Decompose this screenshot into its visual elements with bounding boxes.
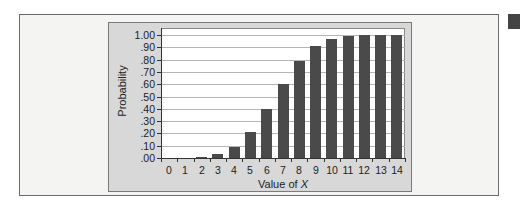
x-tick	[372, 158, 373, 162]
bar-x-2	[196, 157, 207, 158]
x-tick	[259, 158, 260, 162]
x-tick	[210, 158, 211, 162]
y-tick-label: .10	[115, 140, 155, 152]
y-axis	[161, 28, 162, 159]
x-tick-label: 6	[259, 164, 275, 176]
x-tick	[291, 158, 292, 162]
x-axis-label-variable: X	[301, 178, 308, 190]
bar-x-8	[294, 61, 305, 158]
x-axis-label-prefix: Value of	[258, 178, 301, 190]
bar-x-9	[310, 46, 321, 158]
x-tick	[389, 158, 390, 162]
x-tick	[356, 158, 357, 162]
bar-x-6	[261, 109, 272, 158]
x-tick-label: 1	[177, 164, 193, 176]
x-tick-label: 10	[324, 164, 340, 176]
bar-x-11	[343, 36, 354, 158]
bar-x-4	[229, 147, 240, 158]
x-tick	[226, 158, 227, 162]
x-tick	[177, 158, 178, 162]
x-tick-label: 7	[275, 164, 291, 176]
x-tick	[307, 158, 308, 162]
x-tick-label: 12	[356, 164, 372, 176]
x-tick	[242, 158, 243, 162]
x-axis-label: Value of X	[161, 178, 405, 190]
x-tick-label: 8	[291, 164, 307, 176]
x-tick-label: 11	[340, 164, 356, 176]
bar-x-13	[375, 35, 386, 158]
bar-x-5	[245, 132, 256, 158]
x-tick-label: 14	[389, 164, 405, 176]
x-tick	[405, 158, 406, 162]
x-tick-label: 2	[194, 164, 210, 176]
y-axis-label: Probability	[116, 51, 128, 131]
bar-x-12	[359, 35, 370, 158]
x-tick-label: 13	[373, 164, 389, 176]
bar-x-3	[212, 154, 223, 158]
x-tick	[161, 158, 162, 162]
x-tick-label: 4	[226, 164, 242, 176]
y-tick-label: 1.00	[115, 29, 155, 41]
y-tick-label: .00	[115, 152, 155, 164]
x-tick-label: 3	[210, 164, 226, 176]
bar-x-10	[326, 39, 337, 158]
bar-x-7	[278, 84, 289, 158]
bar-x-14	[391, 35, 402, 158]
page-marker	[508, 14, 520, 29]
x-tick-label: 9	[308, 164, 324, 176]
x-axis	[161, 158, 405, 159]
x-tick	[194, 158, 195, 162]
x-tick	[275, 158, 276, 162]
x-tick-label: 0	[161, 164, 177, 176]
x-tick	[340, 158, 341, 162]
x-tick-label: 5	[242, 164, 258, 176]
x-tick	[324, 158, 325, 162]
